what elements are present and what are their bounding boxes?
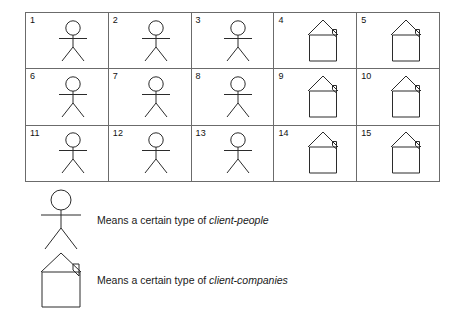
house-building-icon bbox=[36, 251, 86, 309]
client-matrix-grid: 1 2 3 4 5 6 7 bbox=[25, 12, 440, 182]
grid-cell-number: 8 bbox=[196, 71, 201, 82]
legend-label-prefix: Means a certain type of bbox=[97, 214, 209, 226]
grid-cell-number: 1 bbox=[30, 15, 35, 26]
grid-cell[interactable]: 11 bbox=[26, 126, 109, 182]
grid-cell[interactable]: 1 bbox=[26, 13, 109, 69]
legend-label-emphasis: client-companies bbox=[209, 274, 288, 286]
grid-cell[interactable]: 3 bbox=[192, 13, 275, 69]
grid-cell-number: 7 bbox=[113, 71, 118, 82]
grid-cell-number: 6 bbox=[30, 71, 35, 82]
legend-label: Means a certain type of client-companies bbox=[97, 274, 288, 287]
grid-cell[interactable]: 8 bbox=[192, 69, 275, 125]
house-building-icon bbox=[305, 75, 341, 119]
grid-cell-number: 3 bbox=[196, 15, 201, 26]
grid-cell-number: 4 bbox=[278, 15, 283, 26]
grid-cell[interactable]: 15 bbox=[357, 126, 440, 182]
legend-row: Means a certain type of client-people bbox=[25, 190, 445, 250]
stick-figure-person-icon bbox=[56, 132, 90, 174]
legend-label-emphasis: client-people bbox=[209, 214, 269, 226]
grid-cell[interactable]: 6 bbox=[26, 69, 109, 125]
grid-cell[interactable]: 14 bbox=[274, 126, 357, 182]
grid-cell[interactable]: 5 bbox=[357, 13, 440, 69]
grid-cell[interactable]: 7 bbox=[109, 69, 192, 125]
grid-cell-number: 12 bbox=[113, 128, 123, 139]
stick-figure-person-icon bbox=[139, 20, 173, 62]
house-building-icon bbox=[305, 131, 341, 175]
stick-figure-person-icon bbox=[56, 76, 90, 118]
grid-cell[interactable]: 13 bbox=[192, 126, 275, 182]
grid-cell-number: 2 bbox=[113, 15, 118, 26]
stick-figure-person-icon bbox=[221, 76, 255, 118]
grid-cell[interactable]: 2 bbox=[109, 13, 192, 69]
grid-cell-number: 5 bbox=[361, 15, 366, 26]
legend-glyph bbox=[25, 189, 97, 251]
legend-row: Means a certain type of client-companies bbox=[25, 250, 445, 310]
stick-figure-person-icon bbox=[221, 132, 255, 174]
stick-figure-person-icon bbox=[56, 20, 90, 62]
grid-cell[interactable]: 4 bbox=[274, 13, 357, 69]
grid-cell[interactable]: 9 bbox=[274, 69, 357, 125]
grid-cell[interactable]: 10 bbox=[357, 69, 440, 125]
legend-label: Means a certain type of client-people bbox=[97, 214, 269, 227]
grid-cell-number: 13 bbox=[196, 128, 206, 139]
grid-cell-number: 15 bbox=[361, 128, 371, 139]
house-building-icon bbox=[388, 75, 424, 119]
house-building-icon bbox=[305, 19, 341, 63]
stick-figure-person-icon bbox=[36, 189, 86, 251]
house-building-icon bbox=[388, 19, 424, 63]
grid-cell[interactable]: 12 bbox=[109, 126, 192, 182]
grid-cell-number: 9 bbox=[278, 71, 283, 82]
stick-figure-person-icon bbox=[139, 76, 173, 118]
grid-cell-number: 10 bbox=[361, 71, 371, 82]
stick-figure-person-icon bbox=[139, 132, 173, 174]
grid-cell-number: 11 bbox=[30, 128, 40, 139]
legend-label-prefix: Means a certain type of bbox=[97, 274, 209, 286]
grid-cell-number: 14 bbox=[278, 128, 288, 139]
legend: Means a certain type of client-people Me… bbox=[25, 190, 445, 310]
stick-figure-person-icon bbox=[221, 20, 255, 62]
legend-glyph bbox=[25, 251, 97, 309]
house-building-icon bbox=[388, 131, 424, 175]
